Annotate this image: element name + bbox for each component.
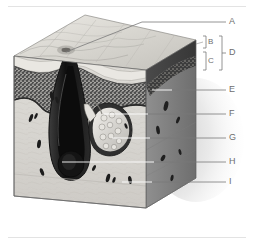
label-g: G bbox=[229, 133, 236, 142]
label-d: D bbox=[229, 48, 236, 57]
label-f: F bbox=[229, 109, 235, 118]
bracket-d bbox=[219, 36, 222, 70]
label-i: I bbox=[229, 177, 232, 186]
bracket-c bbox=[203, 52, 206, 70]
label-h: H bbox=[229, 157, 236, 166]
label-a: A bbox=[229, 17, 235, 26]
skin-cross-section-figure: A B C D E F G H I bbox=[0, 0, 254, 246]
bracket-tie-top bbox=[196, 42, 203, 44]
label-e: E bbox=[229, 85, 235, 94]
label-c: C bbox=[208, 56, 214, 65]
skin-block-illustration bbox=[0, 0, 254, 246]
label-b: B bbox=[208, 37, 214, 46]
bracket-b bbox=[203, 36, 206, 48]
